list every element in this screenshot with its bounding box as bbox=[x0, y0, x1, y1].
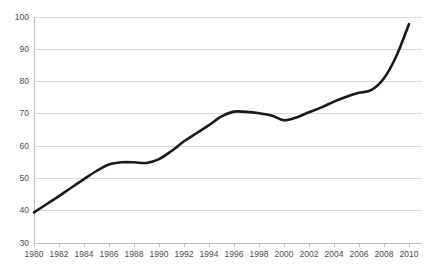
axes-group bbox=[34, 17, 422, 243]
y-axis-tick-label: 100 bbox=[7, 13, 29, 22]
y-axis-tick-label: 70 bbox=[7, 109, 29, 118]
y-axis-tick-label: 60 bbox=[7, 142, 29, 151]
data-series-line bbox=[34, 24, 409, 212]
x-axis-tick-label: 2010 bbox=[394, 250, 424, 259]
x-tickmarks-group bbox=[34, 243, 409, 247]
y-axis-tick-label: 80 bbox=[7, 77, 29, 86]
y-axis-tick-label: 30 bbox=[7, 239, 29, 248]
y-axis-tick-label: 90 bbox=[7, 45, 29, 54]
y-axis-tick-label: 40 bbox=[7, 206, 29, 215]
y-axis-tick-label: 50 bbox=[7, 174, 29, 183]
chart-plot-area bbox=[0, 0, 442, 275]
data-line-group bbox=[34, 24, 409, 212]
line-chart: 30405060708090100 1980198219841986198819… bbox=[0, 0, 442, 275]
